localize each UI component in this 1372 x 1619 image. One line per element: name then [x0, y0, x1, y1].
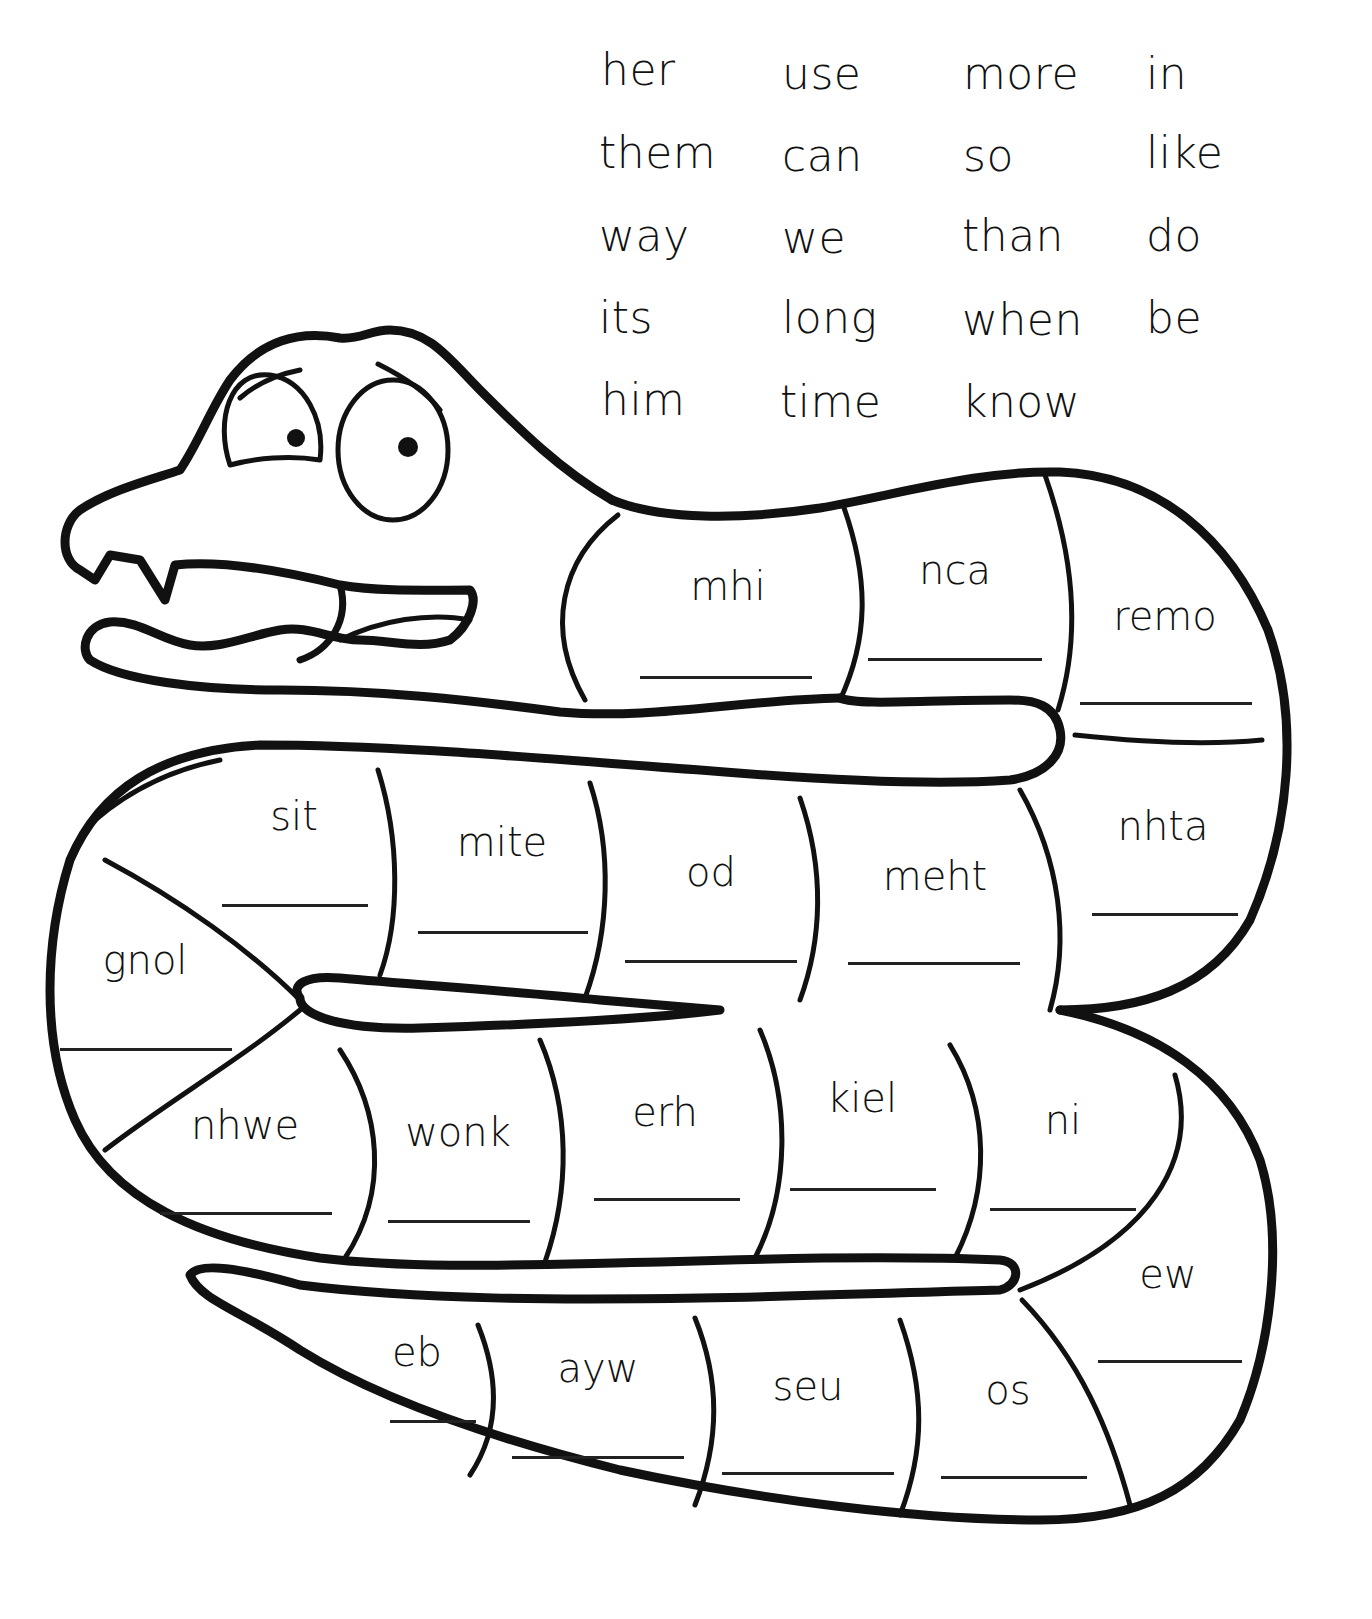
- answer-field[interactable]: [418, 895, 588, 934]
- scrambled-word: eb: [392, 1332, 442, 1372]
- scrambled-word: kiel: [827, 1078, 897, 1118]
- scrambled-word: meht: [883, 856, 988, 896]
- answer-field[interactable]: [1092, 877, 1238, 916]
- answer-field[interactable]: [722, 1436, 894, 1475]
- scrambled-word: nhwe: [191, 1105, 299, 1145]
- scrambled-word: wonk: [405, 1112, 511, 1152]
- pupil-left: [287, 429, 305, 447]
- answer-field[interactable]: [790, 1152, 936, 1191]
- answer-field[interactable]: [1080, 666, 1252, 705]
- answer-field[interactable]: [990, 1172, 1136, 1211]
- scrambled-word: mhi: [690, 566, 765, 606]
- scrambled-word: ni: [1045, 1100, 1081, 1140]
- scrambled-word: od: [686, 852, 736, 892]
- answer-field[interactable]: [222, 868, 368, 907]
- answer-field[interactable]: [388, 1184, 530, 1223]
- answer-field[interactable]: [594, 1162, 740, 1201]
- scrambled-word: gnol: [103, 940, 188, 980]
- scrambled-word: ew: [1139, 1254, 1196, 1294]
- scrambled-word: nca: [919, 550, 991, 590]
- scrambled-word: erh: [632, 1092, 698, 1132]
- answer-field[interactable]: [941, 1440, 1087, 1479]
- scrambled-word: sit: [270, 796, 318, 836]
- scrambled-word: seu: [773, 1366, 844, 1406]
- answer-field[interactable]: [390, 1384, 476, 1423]
- scrambled-word: remo: [1113, 596, 1217, 636]
- answer-field[interactable]: [640, 640, 812, 679]
- answer-field[interactable]: [512, 1420, 684, 1459]
- answer-field[interactable]: [848, 926, 1020, 965]
- answer-field[interactable]: [60, 1012, 232, 1051]
- answer-field[interactable]: [1098, 1324, 1242, 1363]
- answer-field[interactable]: [625, 924, 797, 963]
- scrambled-word: mite: [457, 822, 547, 862]
- answer-field[interactable]: [160, 1176, 332, 1215]
- pupil-right: [398, 437, 418, 457]
- scrambled-word: os: [985, 1370, 1030, 1410]
- scrambled-word: ayw: [558, 1348, 639, 1388]
- answer-field[interactable]: [868, 622, 1042, 661]
- scrambled-word: nhta: [1118, 806, 1209, 846]
